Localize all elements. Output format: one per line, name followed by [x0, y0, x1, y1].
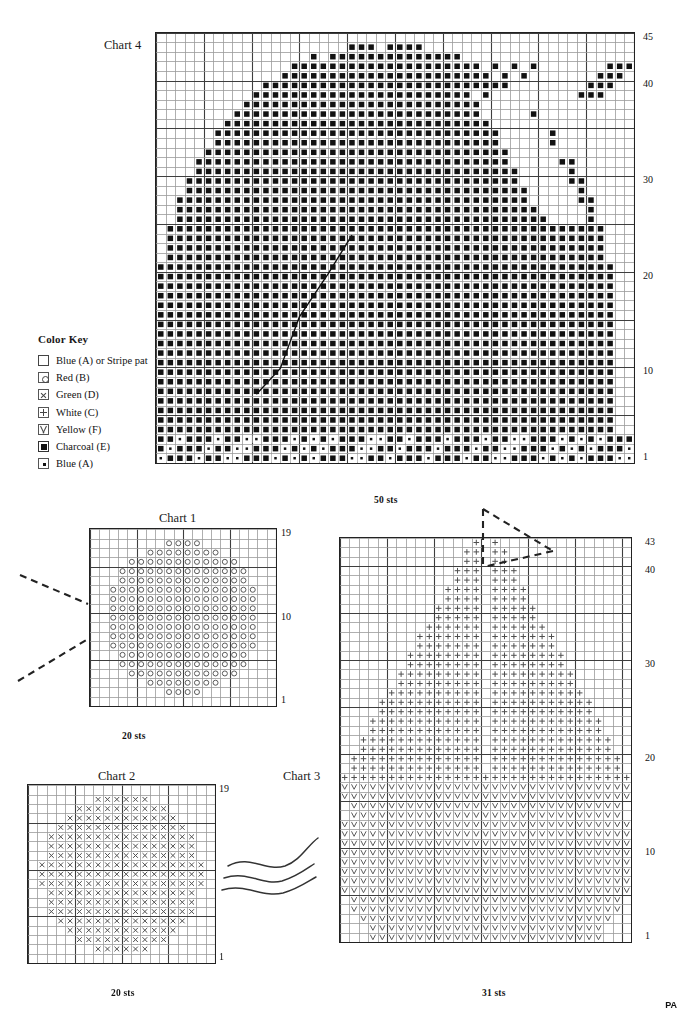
row-number: 19 — [219, 783, 229, 794]
row-number: 20 — [645, 752, 655, 763]
chart-chart2 — [27, 784, 216, 964]
sts-label-chart1: 20 sts — [122, 731, 146, 741]
sts-label-chart2: 20 sts — [111, 988, 135, 998]
row-number: 45 — [643, 31, 653, 42]
chart-chart3 — [339, 537, 632, 943]
grid-canvas-chart2 — [28, 785, 215, 963]
vee-square-icon — [38, 424, 49, 435]
sts-label-chart4: 50 sts — [374, 495, 398, 505]
color-key-label: Red (B) — [56, 372, 90, 383]
row-number: 1 — [645, 930, 650, 941]
chart-title-chart3: Chart 3 — [283, 769, 320, 784]
circle-square-icon — [38, 372, 49, 383]
row-number: 1 — [219, 951, 224, 962]
filled-square-icon — [38, 441, 49, 452]
row-number: 40 — [643, 78, 653, 89]
color-key-label: Blue (A) — [56, 458, 93, 469]
row-number: 30 — [643, 174, 653, 185]
grid-chart1 — [89, 528, 277, 707]
row-number: 19 — [281, 527, 291, 538]
empty-square-icon — [38, 355, 49, 366]
row-number: 40 — [645, 564, 655, 575]
grid-chart3 — [339, 537, 632, 943]
grid-canvas-chart4 — [156, 33, 634, 463]
corner-mark: PA — [665, 1000, 677, 1010]
chart1-leader-lines — [18, 575, 88, 681]
row-number: 30 — [645, 658, 655, 669]
color-key-label: Blue (A) or Stripe pat — [56, 355, 148, 366]
plus-square-icon — [38, 407, 49, 418]
chart-title-chart2: Chart 2 — [98, 769, 135, 784]
color-key-label: Green (D) — [56, 389, 99, 400]
grid-chart4 — [155, 32, 635, 464]
row-number: 10 — [281, 611, 291, 622]
row-number: 1 — [643, 451, 648, 462]
color-key-label: White (C) — [56, 407, 98, 418]
row-number: 10 — [645, 846, 655, 857]
row-number: 1 — [281, 694, 286, 705]
chart-chart4 — [155, 32, 635, 464]
row-number: 20 — [643, 270, 653, 281]
chart-chart1 — [89, 528, 277, 707]
chart-sheet-page: Color Key Blue (A) or Stripe patRed (B)G… — [0, 0, 681, 1012]
grid-canvas-chart1 — [90, 529, 276, 706]
chart2-wavy-lines — [222, 838, 318, 894]
grid-canvas-chart3 — [340, 538, 631, 942]
dot-square-icon — [38, 458, 49, 469]
color-key-label: Yellow (F) — [56, 424, 101, 435]
row-number: 10 — [643, 365, 653, 376]
chart-title-chart1: Chart 1 — [159, 511, 196, 526]
sts-label-chart3: 31 sts — [482, 988, 506, 998]
color-key-label: Charcoal (E) — [56, 441, 110, 452]
x-square-icon — [38, 389, 49, 400]
row-number: 43 — [645, 536, 655, 547]
chart-title-chart4: Chart 4 — [104, 38, 141, 53]
grid-chart2 — [27, 784, 216, 964]
